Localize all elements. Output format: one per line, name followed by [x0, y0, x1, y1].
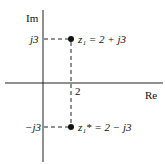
point-z1	[68, 36, 74, 42]
point-z1-label: z₁ = 2 + j3	[78, 34, 126, 45]
point-z1-conjugate	[68, 124, 74, 130]
y-tick-positive: j3	[30, 34, 39, 45]
y-tick-negative: −j3	[25, 122, 41, 133]
imag-axis-label: Im	[26, 13, 38, 24]
complex-plane	[0, 0, 165, 164]
point-z1-conjugate-label: z₁* = 2 − j3	[78, 122, 132, 133]
x-tick-label: 2	[75, 86, 81, 97]
real-axis-label: Re	[145, 90, 157, 101]
